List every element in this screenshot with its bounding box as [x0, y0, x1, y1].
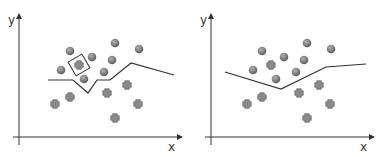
- circle-marker: [327, 45, 336, 54]
- circle-marker: [111, 39, 120, 48]
- x-axis-label: x: [360, 140, 367, 154]
- cross-marker: [243, 100, 251, 108]
- cross-marker: [315, 81, 323, 89]
- cross-marker: [123, 81, 131, 89]
- cross-marker: [103, 89, 111, 97]
- cross-marker: [51, 100, 59, 108]
- y-axis-label: y: [8, 13, 15, 27]
- circle-marker: [100, 68, 109, 77]
- circle-markers: [249, 39, 336, 84]
- circle-marker: [292, 68, 301, 77]
- x-axis-label: x: [168, 140, 175, 154]
- circle-marker: [135, 45, 144, 54]
- cross-marker: [258, 93, 266, 101]
- circle-marker: [88, 53, 97, 62]
- right-panel: y x: [200, 13, 374, 154]
- cross-marker: [66, 93, 74, 101]
- circle-marker: [258, 47, 267, 56]
- circle-marker: [80, 75, 89, 84]
- cross-marker: [267, 61, 275, 69]
- cross-marker: [111, 114, 119, 122]
- circle-marker: [57, 66, 66, 75]
- circle-marker: [272, 75, 281, 84]
- overfit-decision-boundary: [48, 63, 174, 93]
- cross-marker: [326, 100, 334, 108]
- cross-marker: [134, 100, 142, 108]
- left-panel: y x: [8, 13, 182, 154]
- circle-marker: [280, 53, 289, 62]
- classification-diagram: y x y x: [0, 0, 384, 157]
- cross-marker: [295, 89, 303, 97]
- circle-marker: [300, 56, 309, 65]
- circle-marker: [249, 66, 258, 75]
- circle-marker: [108, 56, 117, 65]
- circle-marker: [303, 39, 312, 48]
- cross-marker: [75, 61, 83, 69]
- circle-marker: [66, 47, 75, 56]
- y-axis-label: y: [200, 13, 207, 27]
- cross-marker: [303, 114, 311, 122]
